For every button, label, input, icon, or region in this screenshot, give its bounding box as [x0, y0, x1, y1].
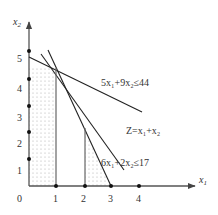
origin-label: 0	[17, 193, 22, 204]
x-tick-3: 3	[108, 193, 113, 204]
y-tick-5: 5	[17, 53, 22, 64]
y-tick-4: 4	[17, 83, 22, 94]
shaded-region-left	[29, 66, 56, 186]
y-tick-3: 3	[17, 112, 22, 123]
x-tick-1: 1	[53, 193, 58, 204]
y-tick-2: 2	[17, 138, 22, 149]
lp-feasible-region-diagram: x2 x1 0 1 2 3 4 1 2 3 4 5 5x₁+9x₂≤44 Z=x…	[0, 0, 218, 215]
x-axis-label: x1	[198, 174, 207, 187]
constraint-label-objective: Z=x₁+x₂	[126, 125, 160, 136]
x-tick-2: 2	[81, 193, 86, 204]
constraint-label-2: 6x₁+2x₂≤17	[101, 157, 149, 168]
x-tick-4: 4	[136, 193, 141, 204]
constraint-label-1: 5x₁+9x₂≤44	[101, 77, 149, 88]
y-axis-label: x2	[12, 16, 21, 29]
y-tick-1: 1	[17, 165, 22, 176]
